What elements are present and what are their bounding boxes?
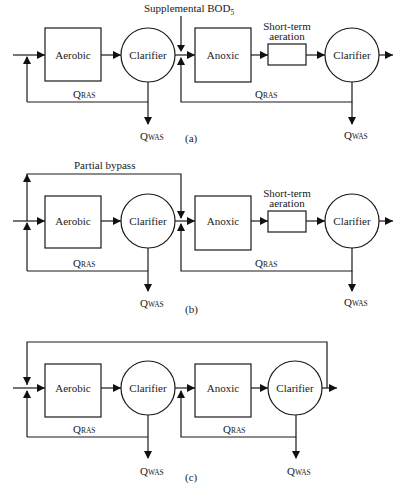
- arrow-down-icon: [292, 451, 300, 459]
- arrow-right-icon: [317, 217, 325, 225]
- arrow-right-icon: [260, 51, 268, 59]
- arrow-down-icon: [348, 117, 356, 125]
- ras1-label: QRAS: [73, 88, 96, 100]
- arrow-right-icon: [113, 51, 121, 59]
- supplemental-bod-label: Supplemental BOD5: [144, 2, 234, 17]
- arrow-right-icon: [385, 217, 393, 225]
- arrow-down-icon: [144, 117, 152, 125]
- arrow-up-icon: [177, 390, 185, 398]
- arrow-down-icon: [144, 284, 152, 292]
- arrow-right-icon: [37, 51, 45, 59]
- clarifier1-label: Clarifier: [129, 49, 167, 61]
- arrow-up-icon: [23, 222, 31, 230]
- anoxic-label: Anoxic: [207, 215, 240, 227]
- aerobic-label: Aerobic: [55, 215, 91, 227]
- arrow-right-icon: [329, 384, 337, 392]
- arrow-up-icon: [23, 56, 31, 64]
- ras2-label: QRAS: [255, 257, 278, 269]
- arrow-up-icon: [177, 223, 185, 231]
- aerobic-label: Aerobic: [55, 49, 91, 61]
- arrow-right-icon: [113, 217, 121, 225]
- was1-label: QWAS: [140, 297, 164, 309]
- ras1-label: QRAS: [73, 257, 96, 269]
- aeration-label: aeration: [269, 197, 305, 209]
- anoxic-label: Anoxic: [207, 49, 240, 61]
- arrow-down-icon: [348, 284, 356, 292]
- clarifier1-label: Clarifier: [129, 382, 167, 394]
- arrow-right-icon: [385, 51, 393, 59]
- was1-label: QWAS: [140, 130, 164, 142]
- arrow-right-icon: [37, 217, 45, 225]
- anoxic-label: Anoxic: [207, 382, 240, 394]
- arrow-right-icon: [187, 217, 195, 225]
- clarifier2-label: Clarifier: [333, 49, 371, 61]
- caption-c: (c): [185, 471, 198, 484]
- arrow-up-icon: [177, 57, 185, 65]
- arrow-down-icon: [177, 45, 185, 52]
- ras2-label: QRAS: [255, 88, 278, 100]
- arrow-right-icon: [187, 384, 195, 392]
- arrow-right-icon: [37, 384, 45, 392]
- arrow-down-icon: [177, 211, 185, 219]
- arrow-right-icon: [260, 384, 268, 392]
- arrow-down-icon: [144, 451, 152, 459]
- panel-a: Supplemental BOD5 Aerobic Clarifier QRAS…: [13, 2, 393, 145]
- process-flow-diagram: Supplemental BOD5 Aerobic Clarifier QRAS…: [0, 0, 410, 490]
- caption-b: (b): [185, 303, 198, 316]
- clarifier2-label: Clarifier: [276, 382, 314, 394]
- aerobic-label: Aerobic: [55, 382, 91, 394]
- short-term-aeration-tank: [268, 211, 306, 232]
- was1-label: QWAS: [140, 465, 164, 477]
- ras1-label: QRAS: [73, 423, 96, 435]
- short-term-aeration-tank: [268, 44, 306, 65]
- was2-label: QWAS: [344, 129, 368, 141]
- partial-bypass-label: Partial bypass: [74, 159, 135, 171]
- panel-b: Partial bypass Aerobic Clarifier QRAS QW…: [13, 159, 393, 316]
- was2-label: QWAS: [287, 465, 311, 477]
- clarifier1-label: Clarifier: [129, 215, 167, 227]
- arrow-up-icon: [23, 390, 31, 398]
- arrow-down-icon: [23, 377, 31, 385]
- arrow-up-icon: [23, 174, 31, 182]
- arrow-right-icon: [317, 51, 325, 59]
- arrow-right-icon: [260, 217, 268, 225]
- was2-label: QWAS: [344, 296, 368, 308]
- arrow-right-icon: [113, 384, 121, 392]
- arrow-right-icon: [187, 51, 195, 59]
- aeration-label: aeration: [269, 30, 305, 42]
- ras2-label: QRAS: [223, 423, 246, 435]
- caption-a: (a): [185, 132, 198, 145]
- clarifier2-label: Clarifier: [333, 215, 371, 227]
- panel-c: Aerobic Clarifier QRAS QWAS Anoxic Clari…: [13, 342, 337, 484]
